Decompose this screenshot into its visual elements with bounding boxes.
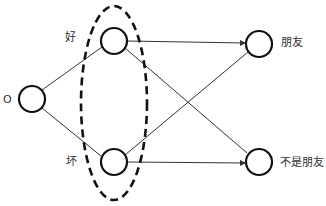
node-not-friend [246, 149, 272, 175]
nodes [19, 28, 272, 175]
label-friend: 朋友 [281, 37, 303, 49]
node-good [101, 28, 127, 54]
diagram-canvas [0, 0, 326, 206]
label-input: O [3, 94, 12, 106]
edge-input-good [42, 47, 102, 90]
edge-bad-notfriend [127, 162, 245, 163]
label-good: 好 [65, 32, 76, 44]
label-bad: 坏 [66, 156, 77, 168]
edge-input-bad [42, 108, 101, 156]
edge-good-friend [127, 41, 245, 43]
label-not-friend: 不是朋友 [280, 157, 324, 169]
node-bad [101, 149, 127, 175]
node-input [19, 86, 45, 112]
neural-network-diagram: O 好 坏 朋友 不是朋友 [0, 0, 326, 206]
node-friend [246, 31, 272, 57]
